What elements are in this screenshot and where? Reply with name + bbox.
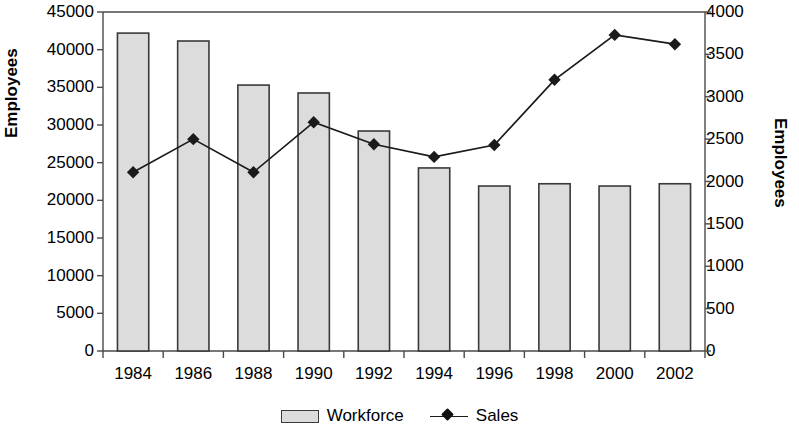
legend-item-workforce: Workforce [281,406,404,426]
diamond-marker [609,29,621,41]
bar [238,85,269,351]
bar [418,168,449,351]
line-series-sales [127,29,681,179]
bar [539,184,570,351]
chart-container: Employees Employees 05000100001500020000… [0,0,799,437]
bar [178,41,209,351]
bar [117,33,148,351]
legend-item-sales: Sales [430,406,519,426]
bar-swatch-icon [281,410,319,423]
legend-label-workforce: Workforce [327,406,404,426]
sales-polyline [133,35,675,172]
bar [358,131,389,351]
bar [479,186,510,351]
chart-legend: Workforce Sales [0,406,799,426]
bar [599,186,630,351]
line-diamond-icon [430,410,468,423]
bar [659,184,690,351]
bar-series-workforce [117,33,690,351]
legend-label-sales: Sales [476,406,519,426]
plot-area [0,0,799,437]
diamond-marker [428,151,440,163]
diamond-marker [669,38,681,50]
legend-diamond-marker [441,408,454,421]
